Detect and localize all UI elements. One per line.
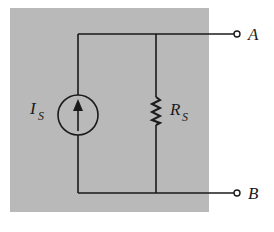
terminal-a-label: A — [247, 25, 259, 44]
circuit-svg: A B I S R S — [0, 0, 274, 232]
source-label-subscript: S — [38, 109, 44, 123]
terminal-b-icon — [234, 190, 240, 196]
circuit-diagram: A B I S R S — [0, 0, 274, 232]
terminal-a-icon — [234, 31, 240, 37]
resistor-label: R — [169, 100, 181, 119]
resistor-label-subscript: S — [182, 110, 188, 124]
terminal-b-label: B — [248, 184, 259, 203]
